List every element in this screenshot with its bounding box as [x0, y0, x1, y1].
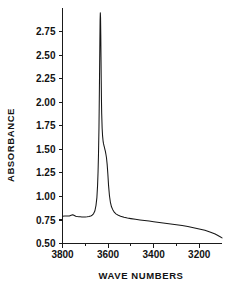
y-tick-label: 2.00 [36, 97, 56, 108]
x-tick-label: 3800 [51, 249, 74, 260]
x-tick-label: 3600 [97, 249, 120, 260]
y-tick-label: 1.50 [36, 144, 56, 155]
x-axis-title: WAVE NUMBERS [98, 270, 183, 281]
y-tick-label: 1.25 [36, 167, 56, 178]
chart-background [0, 0, 230, 291]
chart-page: 0.500.751.001.251.501.752.002.252.502.75… [0, 0, 230, 291]
x-tick-label: 3400 [143, 249, 166, 260]
x-tick-label: 3200 [188, 249, 211, 260]
y-tick-label: 0.75 [36, 215, 56, 226]
y-tick-label: 2.75 [36, 26, 56, 37]
y-tick-label: 1.75 [36, 120, 56, 131]
y-tick-label: 1.00 [36, 191, 56, 202]
y-tick-label: 0.50 [36, 238, 56, 249]
y-tick-label: 2.50 [36, 50, 56, 61]
y-tick-label: 2.25 [36, 73, 56, 84]
spectrum-chart: 0.500.751.001.251.501.752.002.252.502.75… [0, 0, 230, 291]
y-axis-title: ABSORBANCE [5, 108, 16, 182]
